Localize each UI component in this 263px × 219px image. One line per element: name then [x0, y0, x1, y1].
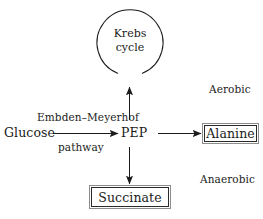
edge-label-embden-meyerhof: Embden–Meyerhof: [37, 112, 139, 123]
krebs-cycle-label: Krebs cycle: [97, 27, 163, 55]
node-glucose: Glucose: [4, 127, 55, 140]
krebs-cycle-label-line1: Krebs: [97, 27, 163, 41]
edge-label-pathway: pathway: [58, 142, 104, 153]
node-succinate: Succinate: [89, 185, 171, 209]
node-alanine: Alanine: [202, 123, 259, 144]
zone-label-anaerobic: Anaerobic: [200, 174, 255, 185]
node-alanine-label: Alanine: [204, 125, 257, 142]
node-pep: PEP: [121, 127, 147, 140]
krebs-cycle-label-line2: cycle: [97, 41, 163, 55]
metabolic-pathway-diagram: Krebs cycle Glucose Embden–Meyerhof path…: [0, 0, 263, 219]
zone-label-aerobic: Aerobic: [209, 84, 251, 95]
node-succinate-label: Succinate: [91, 187, 169, 207]
